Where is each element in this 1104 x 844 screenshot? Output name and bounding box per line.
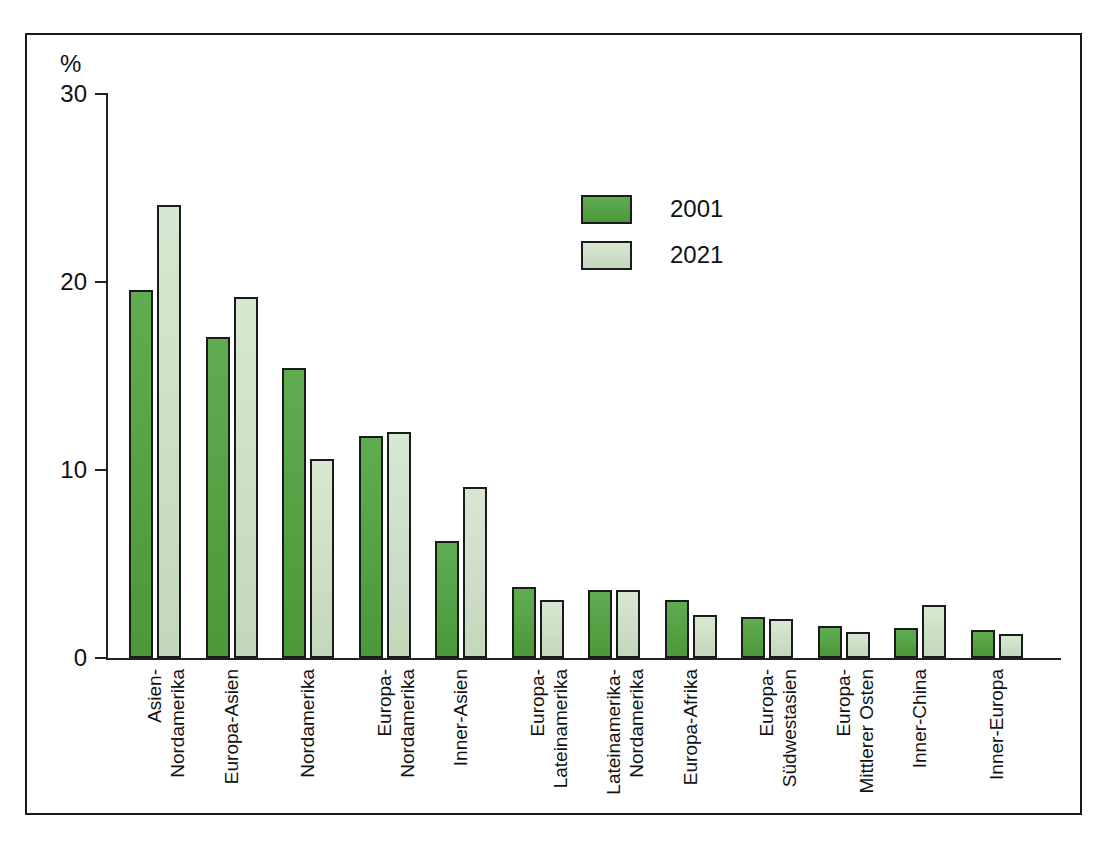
bar-2021-inner-china <box>922 605 946 658</box>
bar-2021-europa-mittlerer-osten <box>846 632 870 658</box>
bar-2001-europa-afrika <box>665 600 689 658</box>
plot-area: % 3020100 Asien-NordamerikaEuropa-AsienN… <box>27 35 1080 813</box>
bar-2001-europa-lateinamerika <box>512 587 536 658</box>
legend-item-2021: 2021 <box>581 237 723 273</box>
bar-2021-europa-asien <box>234 297 258 658</box>
chart-frame: % 3020100 Asien-NordamerikaEuropa-AsienN… <box>25 33 1082 815</box>
bar-2001-inner-europa <box>971 630 995 658</box>
x-axis-label-line2: Nordamerika <box>626 669 648 819</box>
x-axis-label-europa-mittlerer-osten: Europa-Mittlerer Osten <box>833 669 855 819</box>
legend-swatch-icon-2021 <box>581 241 632 270</box>
x-axis-label-europa-afrika: Europa-Afrika <box>680 669 702 819</box>
bar-2021-europa-afrika <box>693 615 717 658</box>
bar-2001-inner-china <box>894 628 918 658</box>
bar-2021-asien-nordamerika <box>157 205 181 658</box>
bar-2001-europa-nordamerika <box>359 436 383 658</box>
bar-2021-inner-asien <box>463 487 487 658</box>
bar-2021-europa-lateinamerika <box>540 600 564 658</box>
chart-legend: 2001 2021 <box>581 191 723 283</box>
x-axis-label-line2: Mittlerer Osten <box>856 669 878 819</box>
bar-2021-europa-nordamerika <box>387 432 411 658</box>
bar-2001-nordamerika <box>282 368 306 658</box>
bar-2021-nordamerika <box>310 459 334 658</box>
x-axis-label-line2: Nordamerika <box>397 669 419 819</box>
bar-2001-europa-s-dwestasien <box>741 617 765 658</box>
bar-2021-europa-s-dwestasien <box>769 619 793 658</box>
legend-swatch-icon-2001 <box>581 195 632 224</box>
x-axis-label-europa-s-dwestasien: Europa-Südwestasien <box>756 669 778 819</box>
legend-label-2021: 2021 <box>670 241 723 269</box>
legend-label-2001: 2001 <box>670 195 723 223</box>
bar-2001-europa-asien <box>206 337 230 658</box>
x-axis-label-lateinamerika-nordamerika: Lateinamerika-Nordamerika <box>603 669 625 819</box>
x-axis-label-line2: Lateinamerika <box>550 669 572 819</box>
x-axis-label-inner-europa: Inner-Europa <box>986 669 1008 819</box>
x-axis-label-line2: Südwestasien <box>779 669 801 819</box>
x-axis-label-inner-asien: Inner-Asien <box>450 669 472 819</box>
bar-2001-asien-nordamerika <box>129 290 153 658</box>
bar-2021-inner-europa <box>999 634 1023 658</box>
x-axis-label-inner-china: Inner-China <box>909 669 931 819</box>
legend-item-2001: 2001 <box>581 191 723 227</box>
bar-2001-lateinamerika-nordamerika <box>588 590 612 658</box>
bar-2001-europa-mittlerer-osten <box>818 626 842 658</box>
x-axis-label-europa-asien: Europa-Asien <box>221 669 243 819</box>
bar-2001-inner-asien <box>435 541 459 658</box>
x-axis-label-line2: Nordamerika <box>167 669 189 819</box>
x-axis-label-europa-nordamerika: Europa-Nordamerika <box>374 669 396 819</box>
x-axis-label-asien-nordamerika: Asien-Nordamerika <box>144 669 166 819</box>
bar-2021-lateinamerika-nordamerika <box>616 590 640 658</box>
x-axis-label-nordamerika: Nordamerika <box>297 669 319 819</box>
x-axis-label-europa-lateinamerika: Europa-Lateinamerika <box>527 669 549 819</box>
